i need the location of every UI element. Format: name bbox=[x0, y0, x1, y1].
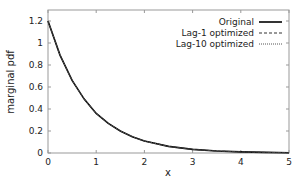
y-tick-label: 0.2 bbox=[29, 126, 43, 136]
legend-label: Lag-10 optimized bbox=[176, 39, 254, 49]
x-tick-label: 3 bbox=[190, 157, 196, 167]
legend-label: Lag-1 optimized bbox=[181, 28, 254, 38]
x-tick-label: 0 bbox=[45, 157, 51, 167]
y-tick-label: 0.4 bbox=[29, 104, 44, 114]
y-tick-label: 0.8 bbox=[29, 60, 44, 70]
y-tick-label: 0.6 bbox=[29, 82, 44, 92]
x-tick-label: 2 bbox=[142, 157, 148, 167]
legend: OriginalLag-1 optimizedLag-10 optimized bbox=[176, 17, 282, 49]
chart: 012345 00.20.40.60.811.2 x marginal pdf … bbox=[0, 0, 306, 181]
legend-label: Original bbox=[219, 17, 254, 27]
y-tick-label: 0 bbox=[37, 148, 43, 158]
x-tick-label: 5 bbox=[286, 157, 292, 167]
x-axis-label: x bbox=[165, 167, 171, 178]
y-axis-label: marginal pdf bbox=[5, 50, 16, 114]
y-tick-label: 1 bbox=[37, 38, 43, 48]
x-tick-label: 1 bbox=[93, 157, 99, 167]
x-tick-label: 4 bbox=[238, 157, 244, 167]
y-tick-label: 1.2 bbox=[29, 16, 43, 26]
